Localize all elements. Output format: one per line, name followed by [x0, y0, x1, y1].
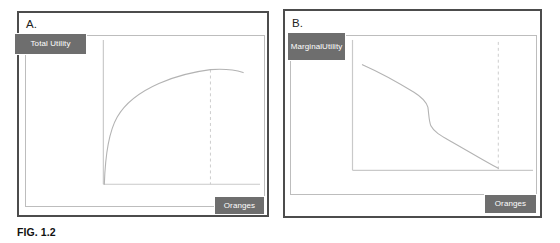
panel-a-x-axis-label: Oranges — [214, 196, 265, 215]
panel-b-y-axis-label-line2: Utility — [322, 42, 342, 52]
panel-b-x-axis-label: Oranges — [484, 194, 537, 214]
figure-container: A. B. — [0, 0, 560, 243]
panel-b-curve-marginal-utility — [362, 65, 498, 169]
panel-b-y-axis-label: Marginal Utility — [287, 32, 346, 61]
panel-a-curve-total-utility — [104, 69, 243, 184]
panel-a-letter: A. — [26, 19, 37, 31]
panel-a-y-axis-label: Total Utility — [14, 33, 87, 55]
panel-b-letter: B. — [292, 18, 303, 30]
panel-b-y-axis-label-line1: Marginal — [291, 42, 322, 52]
panel-a-plot-frame — [25, 35, 265, 207]
panel-a-chart — [26, 36, 264, 206]
figure-caption: FIG. 1.2 — [17, 226, 56, 238]
